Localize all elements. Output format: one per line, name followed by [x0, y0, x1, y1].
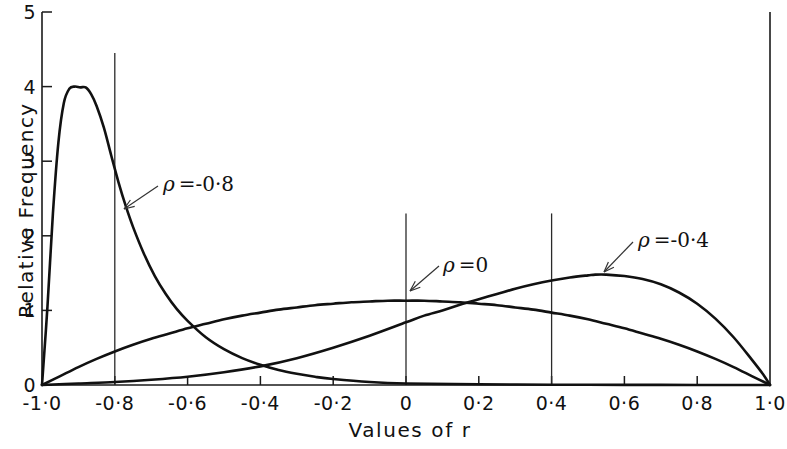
arrow-line-rho-plus-0-4: [604, 242, 633, 272]
chart-plot-area: [0, 0, 787, 449]
x-tick-label-3: -0·4: [241, 392, 280, 414]
x-tick-label-5: 0: [400, 392, 413, 414]
chart-figure: -1·0-0·8-0·6-0·4-0·200·20·40·60·81·0 012…: [0, 0, 787, 449]
reference-lines: [115, 53, 552, 385]
rho-symbol: ρ: [443, 253, 459, 277]
x-tick-label-4: -0·2: [314, 392, 353, 414]
rho-symbol: ρ: [638, 228, 654, 252]
arrow-line-rho-0: [410, 266, 439, 291]
x-tick-label-9: 0·8: [681, 392, 713, 414]
y-tick-label-4: 4: [14, 76, 36, 98]
x-tick-label-7: 0·4: [536, 392, 568, 414]
x-tick-label-8: 0·6: [609, 392, 641, 414]
x-tick-label-10: 1·0: [754, 392, 786, 414]
x-axis-title: Values of r: [348, 418, 471, 442]
annotation-rho-0: ρ=0: [443, 253, 488, 277]
x-tick-label-6: 0·2: [463, 392, 495, 414]
x-tick-label-2: -0·6: [168, 392, 207, 414]
x-tick-label-1: -0·8: [95, 392, 134, 414]
y-axis-title: Relative Frequency: [14, 102, 38, 318]
annotation-value: =0: [459, 253, 488, 277]
annotation-value: =-0·8: [179, 172, 234, 196]
annotation-rho-plus-0-4: ρ=-0·4: [638, 228, 709, 252]
rho-symbol: ρ: [163, 172, 179, 196]
annotation-value: =-0·4: [654, 228, 709, 252]
annotation-arrows: [124, 186, 633, 291]
y-tick-label-5: 5: [14, 1, 36, 23]
arrow-line-rho-minus-0-8: [124, 186, 158, 209]
annotation-rho-minus-0-8: ρ=-0·8: [163, 172, 234, 196]
y-tick-label-0: 0: [14, 374, 36, 396]
